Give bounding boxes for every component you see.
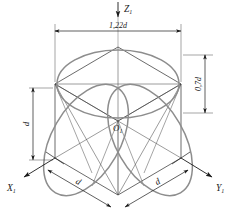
diagram-canvas: Z1 1,22d 0,7d bbox=[0, 0, 236, 216]
isometric-diagram: Z1 1,22d 0,7d bbox=[0, 0, 236, 216]
dim-label-top-width: 1,22d bbox=[109, 21, 128, 30]
dim-label-left-vertical: d bbox=[21, 121, 31, 126]
dim-label-right-height: 0,7d bbox=[194, 76, 203, 91]
